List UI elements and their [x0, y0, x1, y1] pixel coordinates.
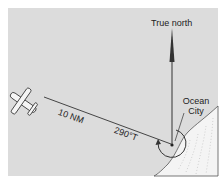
- airplane-icon: [2, 82, 44, 124]
- true-north-label: True north: [151, 19, 192, 28]
- ocean-city-label: Ocean City: [181, 96, 211, 116]
- ocean-city-label-line2: City: [181, 106, 211, 116]
- true-north-arrow: [170, 28, 175, 145]
- bearing-line: [44, 97, 171, 144]
- ocean-city-label-line1: Ocean: [181, 96, 211, 106]
- city-pointer: [175, 113, 184, 141]
- station-dot: [170, 143, 173, 146]
- navigation-diagram: [0, 0, 224, 187]
